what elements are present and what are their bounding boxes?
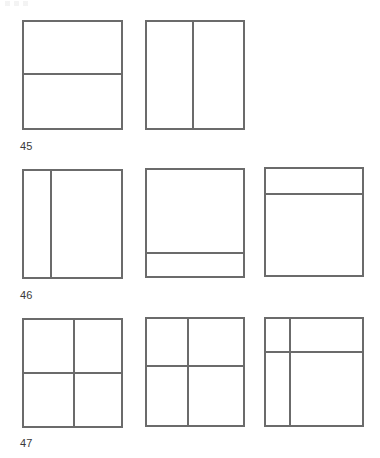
- figure-47-c-divider-vertical-1: [289, 319, 291, 425]
- figure-46-b-divider-horizontal-1: [147, 252, 243, 254]
- figure-46-c: [264, 167, 364, 277]
- scan-artifact: [5, 1, 31, 6]
- figure-47-a-divider-horizontal-2: [24, 372, 121, 374]
- figure-47-a: [22, 318, 123, 428]
- figure-47-b-divider-horizontal-2: [147, 365, 243, 367]
- figure-47-c: [264, 317, 364, 427]
- figure-45-b-divider-vertical-1: [192, 22, 194, 128]
- figure-46-c-divider-horizontal-1: [266, 193, 362, 195]
- figure-46-b: [145, 168, 245, 278]
- figure-45-a-divider-horizontal-1: [24, 73, 121, 75]
- figure-46-a: [22, 169, 123, 279]
- figure-row-label-47: 47: [20, 437, 33, 450]
- figure-sheet: 454647: [0, 0, 380, 458]
- figure-47-b-divider-vertical-1: [187, 319, 189, 425]
- figure-47-c-divider-horizontal-2: [266, 351, 362, 353]
- figure-46-a-divider-vertical-1: [50, 171, 52, 277]
- figure-45-a: [22, 20, 123, 130]
- figure-45-b: [145, 20, 245, 130]
- figure-row-label-46: 46: [20, 289, 33, 302]
- figure-47-b: [145, 317, 245, 427]
- figure-row-label-45: 45: [20, 140, 33, 153]
